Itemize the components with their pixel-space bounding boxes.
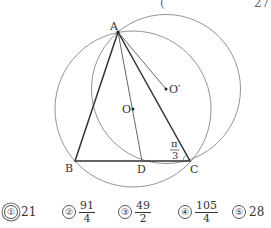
point-o [132, 108, 135, 111]
choice-number: ① [4, 205, 18, 219]
label-c: C [190, 163, 198, 176]
choice-number: ⑤ [232, 205, 246, 219]
label-d: D [137, 163, 146, 176]
fraction: 49 2 [135, 200, 151, 225]
choice-2[interactable]: ② 91 4 [62, 197, 95, 227]
label-b: B [65, 162, 73, 175]
point-o-prime [165, 88, 168, 91]
fraction: 105 4 [195, 200, 218, 225]
angle-label-numerator: π [171, 138, 178, 149]
choice-number: ④ [178, 205, 192, 219]
geometry-figure: A B C D O O′ π 3 [0, 0, 271, 195]
choice-4[interactable]: ④ 105 4 [178, 197, 218, 227]
choice-3[interactable]: ③ 49 2 [118, 197, 151, 227]
answer-choices: ① 21 ② 91 4 ③ 49 2 ④ 105 4 ⑤ 28 [0, 197, 271, 227]
choice-value: 28 [249, 205, 264, 219]
choice-number: ② [62, 205, 76, 219]
label-a: A [109, 20, 119, 33]
choice-value: 21 [21, 205, 36, 219]
angle-label-denominator: 3 [172, 150, 178, 161]
segment-ad [118, 32, 142, 161]
angle-arc-c [183, 155, 187, 161]
choice-1[interactable]: ① 21 [4, 197, 36, 227]
label-o-prime: O′ [169, 83, 181, 96]
choice-5[interactable]: ⑤ 28 [232, 197, 264, 227]
segment-ao-prime [118, 32, 166, 89]
label-o: O [122, 103, 131, 116]
choice-number: ③ [118, 205, 132, 219]
fraction: 91 4 [79, 200, 95, 225]
